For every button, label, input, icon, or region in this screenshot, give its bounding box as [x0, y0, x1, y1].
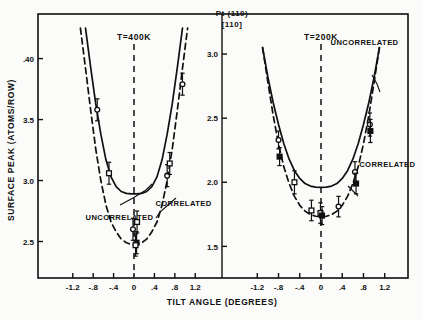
- x-tick-label: .4: [339, 283, 346, 292]
- x-tick-label: -.8: [274, 283, 284, 292]
- x-tick-label: -1.2: [250, 283, 264, 292]
- y-tick-label: 3.5: [23, 116, 35, 125]
- data-point-open-square: [167, 161, 172, 166]
- data-point-filled-square: [277, 154, 282, 159]
- scientific-plot: 2.53.03.5.40-1.2-.8-.40.4.81.2T=400KUNCO…: [0, 0, 422, 320]
- data-point-open-circle: [276, 138, 281, 143]
- data-point-filled-square: [368, 129, 373, 134]
- series-label-correlated: CORRELATED: [155, 199, 211, 208]
- x-tick-label: -1.2: [66, 283, 80, 292]
- data-point-open-circle: [336, 204, 341, 209]
- y-tick-label: 2.5: [207, 114, 219, 123]
- y-tick-label: 2.5: [23, 238, 35, 247]
- data-point-open-square: [107, 171, 112, 176]
- data-point-open-circle: [131, 227, 136, 232]
- data-point-open-square: [292, 180, 297, 185]
- data-point-filled-square: [354, 181, 359, 186]
- series-label-correlated: CORRELATED: [359, 160, 415, 169]
- y-tick-label: 1.5: [207, 243, 219, 252]
- series-label-uncorrelated: UNCORRELATED: [86, 213, 154, 222]
- left-panel: 2.53.03.5.40-1.2-.8-.40.4.81.2T=400KUNCO…: [23, 28, 212, 292]
- x-tick-label: 0: [319, 283, 324, 292]
- plot-title-line2: [110]: [222, 20, 243, 29]
- y-tick-label: 3.0: [207, 50, 219, 59]
- x-axis-title: TILT ANGLE (DEGREES): [167, 297, 278, 307]
- x-tick-label: 0: [132, 283, 137, 292]
- data-point-open-square: [133, 243, 138, 248]
- x-tick-label: .4: [151, 283, 158, 292]
- plot-title-line1: Pt (110): [216, 9, 248, 18]
- x-tick-label: -.4: [295, 283, 305, 292]
- temperature-label: T=400K: [117, 32, 151, 42]
- y-tick-label: 3.0: [23, 177, 35, 186]
- x-tick-label: .8: [360, 283, 367, 292]
- x-tick-label: .8: [171, 283, 178, 292]
- right-panel: 1.52.02.53.0-1.2-.8-.40.4.81.2T=200KUNCO…: [207, 32, 416, 292]
- figure-canvas: 2.53.03.5.40-1.2-.8-.40.4.81.2T=400KUNCO…: [0, 0, 422, 320]
- y-tick-label: .40: [23, 55, 35, 64]
- data-point-open-circle: [180, 82, 185, 87]
- series-label-uncorrelated: UNCORRELATED: [331, 38, 399, 47]
- x-tick-label: 1.2: [379, 283, 391, 292]
- y-axis-title: SURFACE PEAK (ATOMS/ROW): [6, 79, 16, 221]
- y-tick-label: 2.0: [207, 178, 219, 187]
- data-point-open-square: [309, 208, 314, 213]
- data-point-open-circle: [95, 107, 100, 112]
- x-tick-label: -.4: [109, 283, 119, 292]
- data-point-filled-square: [320, 213, 325, 218]
- x-tick-label: -.8: [89, 283, 99, 292]
- x-tick-label: 1.2: [190, 283, 202, 292]
